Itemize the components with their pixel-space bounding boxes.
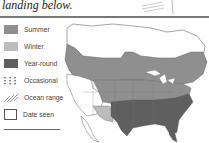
range-map	[63, 22, 209, 143]
header-divider	[0, 16, 209, 18]
legend-bottom-rule	[4, 129, 60, 130]
year-round-swatch	[4, 59, 18, 68]
legend-label: Date seen	[23, 110, 54, 119]
winter-swatch	[4, 42, 18, 51]
legend-label: Winter	[24, 42, 44, 51]
caption-text: landing below.	[2, 0, 72, 13]
occasional-dots-icon	[4, 76, 18, 85]
legend-label: Year-round	[24, 59, 57, 68]
legend-item-winter: Winter	[4, 40, 47, 52]
legend-item-date-seen: Date seen	[4, 108, 59, 120]
summer-swatch	[4, 25, 18, 34]
legend-label: Summer	[24, 25, 50, 34]
decorative-lines	[140, 0, 180, 16]
legend-item-occasional: Occasional	[4, 74, 64, 86]
ocean-hatch-icon	[4, 93, 18, 102]
legend-item-year-round: Year-round	[4, 57, 63, 69]
legend-item-ocean-range: Ocean range	[4, 91, 70, 103]
legend-label: Occasional	[24, 76, 58, 85]
date-seen-box	[4, 109, 17, 120]
legend-item-summer: Summer	[4, 23, 54, 35]
legend-label: Ocean range	[24, 93, 63, 102]
